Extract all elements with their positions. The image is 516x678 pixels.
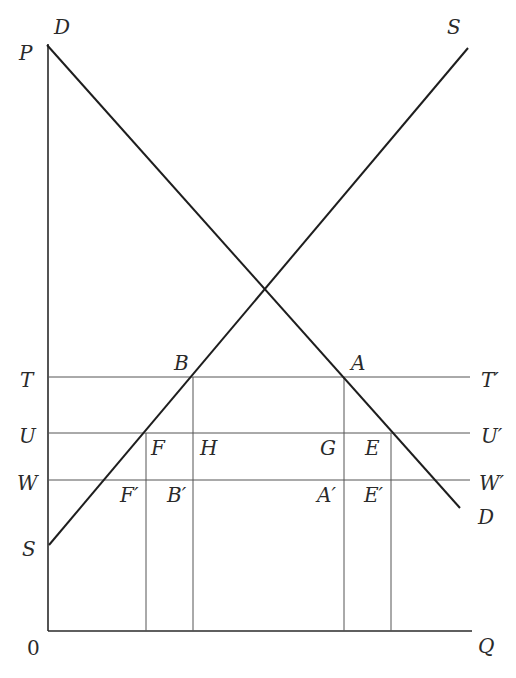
label-E-prime: E′ [363,483,384,507]
label-D-bottom: D [477,505,494,529]
label-F: F [150,436,166,460]
label-T: T [20,368,35,392]
label-S-top: S [447,15,461,39]
label-G: G [320,436,336,460]
label-F-prime: F′ [119,483,139,507]
demand-curve [47,45,460,508]
label-B-prime: B′ [166,483,187,507]
label-T-prime: T′ [481,368,499,392]
label-S-bottom: S [22,537,36,561]
label-H: H [199,436,218,460]
label-A-prime: A′ [315,483,336,507]
label-D-top: D [53,15,70,39]
label-U-prime: U′ [481,424,503,448]
label-origin: 0 [27,636,40,660]
label-A: A [349,351,365,375]
label-W-prime: W′ [479,471,505,495]
label-Q: Q [478,634,494,658]
label-B: B [173,351,189,375]
supply-curve [49,48,468,545]
label-W: W [17,471,39,495]
label-E: E [364,436,380,460]
label-P: P [18,41,33,65]
label-U: U [19,424,37,448]
supply-demand-diagram: P 0 Q D D S S T U W T′ U′ W′ B A F H G E… [0,0,516,678]
